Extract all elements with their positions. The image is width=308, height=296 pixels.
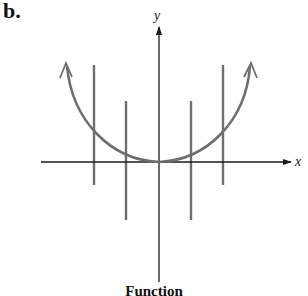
x-axis-label: x: [294, 154, 302, 169]
curve-arrow-left-icon: [60, 63, 72, 78]
figure-caption: Function: [0, 283, 308, 296]
function-graph: x y: [0, 0, 308, 296]
y-axis-label: y: [152, 8, 161, 23]
